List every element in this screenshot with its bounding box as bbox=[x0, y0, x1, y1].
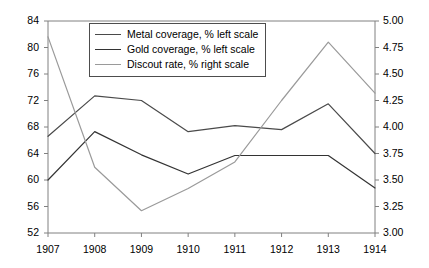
legend-label-gold-coverage: Gold coverage, % left scale bbox=[127, 44, 255, 55]
x-axis-ticks bbox=[48, 233, 375, 237]
x-tick-label-1908: 1908 bbox=[73, 244, 117, 255]
right-tick-label-3.50: 3.50 bbox=[383, 174, 403, 185]
right-tick-label-4.25: 4.25 bbox=[383, 95, 403, 106]
legend-label-metal-coverage: Metal coverage, % left scale bbox=[127, 29, 258, 40]
right-tick-label-4.00: 4.00 bbox=[383, 121, 403, 132]
x-tick-label-1910: 1910 bbox=[166, 244, 210, 255]
chart-container: 5256606468727680843.003.253.503.754.004.… bbox=[0, 0, 429, 268]
legend-swatch-discount-rate bbox=[95, 64, 121, 65]
x-tick-label-1914: 1914 bbox=[353, 244, 397, 255]
legend-item-gold-coverage: Gold coverage, % left scale bbox=[95, 42, 258, 57]
x-tick-label-1913: 1913 bbox=[306, 244, 350, 255]
left-tick-label-56: 56 bbox=[0, 201, 39, 212]
left-tick-label-60: 60 bbox=[0, 174, 39, 185]
x-tick-label-1907: 1907 bbox=[26, 244, 70, 255]
left-tick-label-84: 84 bbox=[0, 15, 39, 26]
left-tick-label-68: 68 bbox=[0, 121, 39, 132]
series-line-0 bbox=[48, 96, 375, 154]
right-tick-label-4.50: 4.50 bbox=[383, 68, 403, 79]
left-tick-label-76: 76 bbox=[0, 68, 39, 79]
right-axis-ticks bbox=[375, 21, 379, 233]
right-tick-label-3.00: 3.00 bbox=[383, 227, 403, 238]
right-tick-label-5.00: 5.00 bbox=[383, 15, 403, 26]
x-tick-label-1911: 1911 bbox=[213, 244, 257, 255]
right-tick-label-4.75: 4.75 bbox=[383, 42, 403, 53]
series-line-1 bbox=[48, 132, 375, 188]
right-tick-label-3.75: 3.75 bbox=[383, 148, 403, 159]
legend-swatch-metal-coverage bbox=[95, 34, 121, 35]
x-tick-label-1912: 1912 bbox=[260, 244, 304, 255]
left-tick-label-52: 52 bbox=[0, 227, 39, 238]
left-axis-ticks bbox=[44, 21, 48, 233]
left-tick-label-72: 72 bbox=[0, 95, 39, 106]
legend-swatch-gold-coverage bbox=[95, 49, 121, 50]
legend-item-metal-coverage: Metal coverage, % left scale bbox=[95, 27, 258, 42]
legend-label-discount-rate: Discout rate, % right scale bbox=[127, 59, 249, 70]
legend-item-discount-rate: Discout rate, % right scale bbox=[95, 57, 258, 72]
left-tick-label-64: 64 bbox=[0, 148, 39, 159]
right-tick-label-3.25: 3.25 bbox=[383, 201, 403, 212]
left-tick-label-80: 80 bbox=[0, 42, 39, 53]
chart-legend: Metal coverage, % left scale Gold covera… bbox=[89, 23, 266, 77]
x-tick-label-1909: 1909 bbox=[119, 244, 163, 255]
